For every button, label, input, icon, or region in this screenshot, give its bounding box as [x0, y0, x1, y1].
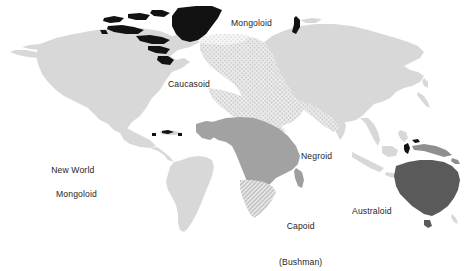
caribbean-island-mark-3 — [178, 133, 182, 136]
label-capoid-line1: Capoid — [279, 220, 322, 232]
label-new-world-mongoloid: New World Mongoloid — [41, 152, 97, 224]
label-caucasoid: Caucasoid — [168, 79, 210, 90]
label-negroid: Negroid — [301, 151, 332, 162]
label-new-world-mongoloid-line2: Mongoloid — [41, 188, 97, 200]
label-mongoloid: Mongoloid — [231, 18, 272, 29]
label-new-world-mongoloid-line1: New World — [51, 165, 94, 175]
caribbean-island-mark-2 — [152, 133, 156, 136]
label-capoid-line2: (Bushman) — [279, 256, 322, 268]
label-capoid-bushman: Capoid (Bushman) — [279, 196, 322, 271]
label-australoid: Australoid — [352, 206, 392, 217]
